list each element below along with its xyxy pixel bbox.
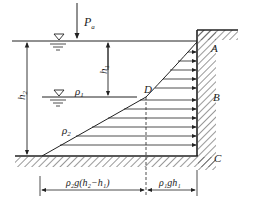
label-rho1: ρ1	[74, 85, 84, 99]
label-pa: Pa	[83, 15, 95, 31]
label-rho2: ρ2	[61, 124, 71, 138]
pressure-diagram: Pa h1 h2 ρ1 ρ2 D A B C ρ₂g(h₂−h₁) ρ₁gh₁	[0, 0, 255, 210]
label-a: A	[210, 42, 218, 54]
label-h1: h1	[97, 65, 111, 74]
label-c: C	[214, 152, 222, 164]
pressure-profile	[42, 42, 197, 156]
label-dim-upper: ρ₁gh₁	[158, 177, 181, 188]
ground	[15, 156, 215, 167]
label-h2: h2	[15, 91, 29, 101]
label-d: D	[143, 83, 152, 95]
label-dim-lower: ρ₂g(h₂−h₁)	[65, 177, 110, 189]
label-b: B	[213, 91, 220, 103]
interface-level-icon	[50, 90, 66, 106]
water-level-icon	[50, 34, 66, 50]
